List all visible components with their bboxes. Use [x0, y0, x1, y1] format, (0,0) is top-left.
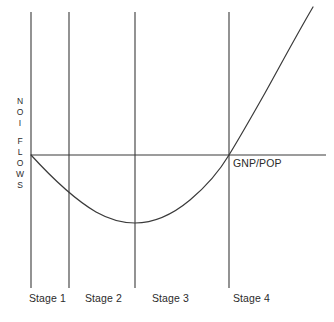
y-axis-label: Net Outward Investment (NOI) position N … — [13, 96, 27, 191]
stage-label-2: Stage 2 — [85, 292, 122, 304]
y-axis-label-letter-f: F — [13, 136, 27, 147]
investment-development-path-chart: Net Outward Investment (NOI) position N … — [0, 0, 334, 322]
y-axis-label-letter-o: O — [13, 107, 27, 118]
y-axis-label-letter-n: N — [13, 96, 27, 107]
y-axis-label-letter-l: L — [13, 147, 27, 158]
stage-label-1: Stage 1 — [29, 292, 66, 304]
stage-divider-lines — [31, 12, 229, 288]
y-axis-label-letter-i: I — [13, 118, 27, 129]
stage-label-4: Stage 4 — [233, 292, 270, 304]
chart-canvas — [0, 0, 334, 322]
y-axis-label-gap — [13, 129, 27, 136]
y-axis-label-letter-s: S — [13, 180, 27, 191]
stage-label-3: Stage 3 — [152, 292, 189, 304]
y-axis-label-letter-o2: O — [13, 158, 27, 169]
noi-curve — [31, 7, 313, 223]
y-axis-label-letter-w: W — [13, 169, 27, 180]
x-axis-label: GNP/POP — [233, 157, 282, 169]
